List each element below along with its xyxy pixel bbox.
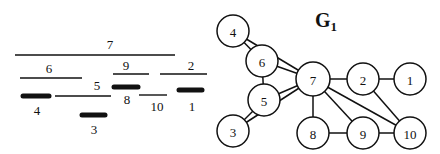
interval-10: 10 bbox=[139, 95, 167, 114]
graph-g1: 46753218910 G1 bbox=[217, 9, 426, 149]
interval-9: 9 bbox=[113, 58, 149, 74]
node-label: 9 bbox=[360, 127, 367, 142]
interval-label: 2 bbox=[188, 58, 195, 73]
interval-5: 5 bbox=[55, 78, 111, 96]
graph-nodes: 46753218910 bbox=[217, 15, 426, 149]
node-label: 5 bbox=[261, 94, 268, 109]
node-9: 9 bbox=[347, 117, 379, 149]
node-label: 10 bbox=[404, 127, 417, 142]
node-3: 3 bbox=[217, 115, 249, 147]
node-5: 5 bbox=[248, 84, 280, 116]
interval-label: 7 bbox=[107, 37, 114, 52]
interval-8: 8 bbox=[114, 87, 138, 107]
node-6: 6 bbox=[246, 45, 278, 77]
node-label: 1 bbox=[407, 73, 414, 88]
node-2: 2 bbox=[347, 63, 379, 95]
graph-title: G1 bbox=[315, 9, 337, 34]
interval-representation: 76925438101 bbox=[15, 37, 207, 137]
node-label: 4 bbox=[230, 25, 237, 40]
interval-4: 4 bbox=[23, 96, 49, 118]
graph-title-subscript: 1 bbox=[331, 19, 338, 34]
interval-6: 6 bbox=[20, 61, 82, 78]
interval-3: 3 bbox=[82, 115, 105, 137]
node-label: 7 bbox=[310, 73, 317, 88]
node-4: 4 bbox=[217, 15, 249, 47]
interval-label: 6 bbox=[46, 61, 53, 76]
interval-label: 8 bbox=[124, 92, 131, 107]
interval-label: 9 bbox=[123, 58, 130, 73]
interval-2: 2 bbox=[160, 58, 207, 74]
interval-label: 3 bbox=[91, 122, 98, 137]
graph-title-main: G bbox=[315, 9, 331, 31]
node-8: 8 bbox=[297, 117, 329, 149]
interval-label: 4 bbox=[34, 103, 41, 118]
figure-canvas: 76925438101 46753218910 G1 bbox=[0, 0, 440, 154]
node-10: 10 bbox=[394, 117, 426, 149]
interval-label: 1 bbox=[189, 99, 196, 114]
node-label: 8 bbox=[310, 127, 317, 142]
interval-1: 1 bbox=[179, 90, 202, 114]
node-label: 2 bbox=[360, 73, 367, 88]
interval-label: 5 bbox=[94, 78, 101, 93]
node-label: 6 bbox=[259, 55, 266, 70]
interval-label: 10 bbox=[151, 99, 164, 114]
node-label: 3 bbox=[230, 125, 237, 140]
node-1: 1 bbox=[394, 63, 426, 95]
interval-7: 7 bbox=[15, 37, 175, 55]
node-7: 7 bbox=[296, 62, 330, 96]
